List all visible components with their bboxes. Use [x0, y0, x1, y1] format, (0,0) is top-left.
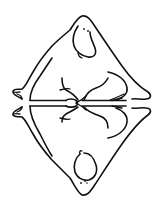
reflection-drawing	[0, 0, 162, 208]
upper-figure	[13, 16, 151, 100]
lower-figure-reflection	[13, 106, 151, 195]
